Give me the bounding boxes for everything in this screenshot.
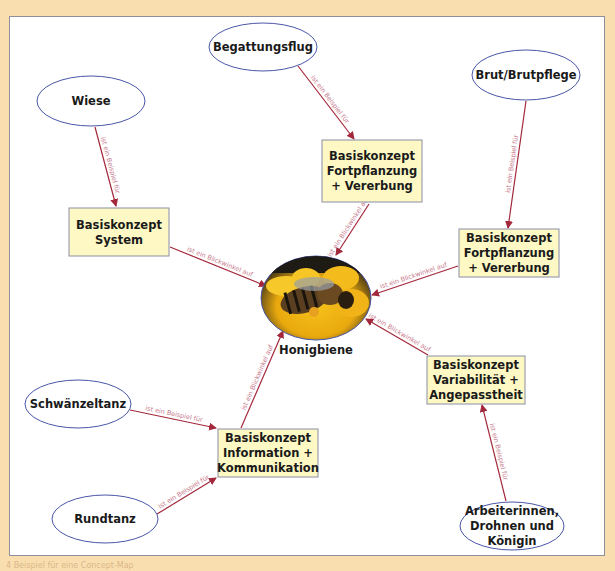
node-label-line: Angepasstheit <box>429 388 523 402</box>
node-label-line: Rundtanz <box>74 512 136 526</box>
edge-arrow-variabilitaet-to-honigbiene <box>366 319 428 355</box>
node-label-line: Basiskonzept <box>433 358 519 372</box>
concept-map: ist ein Beispiel fürist ein Beispiel für… <box>0 0 615 571</box>
example-node-wiese: Wiese <box>37 76 145 126</box>
node-label-line: + Vererbung <box>331 179 413 193</box>
edge-label: ist ein Blickwinkel auf <box>367 312 432 355</box>
concept-box-system: BasiskonzeptSystem <box>69 208 169 256</box>
concept-box-fortpflanzung1: BasiskonzeptFortpflanzung+ Vererbung <box>322 140 422 202</box>
edge-arrow-begattungsflug-to-fortpflanzung1 <box>298 66 354 139</box>
node-label-line: Kommunikation <box>217 461 319 475</box>
edge-label: ist ein Beispiel für <box>504 134 520 193</box>
edge-arrow-rundtanz-to-information <box>157 478 216 514</box>
edge-arrow-information-to-honigbiene <box>241 331 283 428</box>
node-label-line: System <box>95 233 143 247</box>
node-label-line: Begattungsflug <box>213 40 313 54</box>
center-node-honigbiene: Honigbiene <box>256 253 376 357</box>
node-label-line: Basiskonzept <box>76 218 162 232</box>
node-label-line: Schwänzeltanz <box>30 397 127 411</box>
node-label-line: Arbeiterinnen, <box>465 504 559 518</box>
node-label-line: Wiese <box>71 94 110 108</box>
node-label-line: Variabilität + <box>433 373 519 387</box>
node-label-line: Fortpflanzung <box>464 246 554 260</box>
example-node-rundtanz: Rundtanz <box>52 495 158 543</box>
concept-box-variabilitaet: BasiskonzeptVariabilität +Angepasstheit <box>427 356 525 404</box>
edge-arrow-system-to-honigbiene <box>170 247 266 286</box>
node-label-line: Basiskonzept <box>329 149 415 163</box>
example-node-arbeiterinnen: Arbeiterinnen,Drohnen undKönigin <box>460 502 564 550</box>
edge-label: ist ein Blickwinkel auf <box>326 195 371 259</box>
example-node-schwaenzeltanz: Schwänzeltanz <box>25 380 131 428</box>
example-node-begattungsflug: Begattungsflug <box>209 23 317 71</box>
concept-box-information: BasiskonzeptInformation +Kommunikation <box>217 429 319 477</box>
node-label-line: Brut/Brutpflege <box>475 68 576 82</box>
center-label: Honigbiene <box>279 343 353 357</box>
node-label-line: Fortpflanzung <box>327 164 417 178</box>
edge-label: ist ein Blickwinkel auf <box>186 245 255 279</box>
node-label-line: Basiskonzept <box>466 231 552 245</box>
node-label-line: Drohnen und <box>470 519 554 533</box>
node-label-line: Basiskonzept <box>225 431 311 445</box>
edge-label: ist ein Beispiel für <box>157 473 211 510</box>
edge-label: ist ein Blickwinkel auf <box>379 261 449 291</box>
node-label-line: Information + <box>223 446 313 460</box>
example-node-brut: Brut/Brutpflege <box>472 50 580 100</box>
figure-caption: 4 Beispiel für eine Concept-Map <box>6 561 134 570</box>
concept-box-fortpflanzung2: BasiskonzeptFortpflanzung+ Vererbung <box>459 229 559 277</box>
node-label-line: + Vererbung <box>468 261 550 275</box>
edge-label: ist ein Beispiel für <box>309 74 351 125</box>
edge-label: ist ein Blickwinkel auf <box>240 343 276 411</box>
node-label-line: Königin <box>487 534 536 548</box>
edge-label: ist ein Beispiel für <box>145 404 204 424</box>
